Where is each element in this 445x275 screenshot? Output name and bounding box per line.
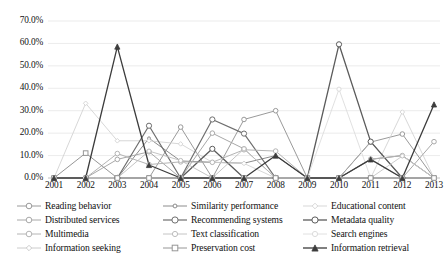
data-point-marker [172,217,178,223]
x-axis-tick: 2007 [235,180,253,191]
data-point-marker [273,108,278,113]
legend-label: Information retrieval [331,243,409,253]
legend-item-distributed-services[interactable]: Distributed services [16,213,162,227]
x-axis-tick: 2010 [330,180,348,191]
legend-item-text-classification[interactable]: Text classification [162,227,302,241]
data-point-marker [178,142,183,147]
y-axis-tick: 20.0% [20,128,43,137]
data-point-marker [178,125,183,130]
data-point-marker [210,160,215,165]
legend-marker-icon [16,228,42,240]
y-axis-tick: 0.0% [24,173,43,182]
legend-label: Preservation cost [191,243,255,253]
legend-label: Text classification [191,229,259,239]
data-point-marker [432,139,437,144]
y-axis-tick: 70.0% [20,16,43,25]
data-point-marker [242,147,246,151]
x-axis-labels: 2001200220032004200520062007200820092010… [48,180,440,198]
data-point-marker [115,157,120,162]
x-axis-tick: 2004 [140,180,158,191]
legend-item-information-seeking[interactable]: Information seeking [16,241,162,255]
data-point-marker [242,117,247,122]
data-point-marker [210,146,215,151]
data-point-marker [115,151,120,156]
y-axis-tick: 50.0% [20,61,43,70]
legend-marker-icon [302,200,328,212]
y-axis-tick: 60.0% [20,38,43,47]
legend-label: Distributed services [45,215,119,225]
legend-label: Recommending systems [191,215,283,225]
legend-marker-icon [302,242,328,254]
data-point-marker [26,231,32,237]
series-markers-educational-content [52,101,437,180]
data-point-marker [179,158,183,162]
data-point-marker [147,149,151,153]
legend-marker-icon [302,214,328,226]
legend-label: Educational content [331,201,406,211]
legend-marker-icon [162,242,188,254]
legend-marker-icon [302,228,328,240]
data-point-marker [83,151,88,156]
data-point-marker [172,246,178,252]
legend-marker-icon [162,228,188,240]
x-axis-tick: 2005 [172,180,190,191]
legend-item-recommending-systems[interactable]: Recommending systems [162,213,302,227]
y-axis-tick: 10.0% [20,151,43,160]
x-axis-tick: 2006 [203,180,221,191]
x-axis-tick: 2003 [108,180,126,191]
y-axis-tick: 30.0% [20,106,43,115]
legend-item-reading-behavior[interactable]: Reading behavior [16,199,162,213]
data-point-marker [400,132,405,137]
x-axis-tick: 2002 [77,180,95,191]
x-axis-tick: 2001 [45,180,63,191]
chart-plot-svg [48,0,440,198]
data-point-marker [241,131,246,136]
data-point-marker [431,102,436,107]
y-axis-tick: 40.0% [20,83,43,92]
x-axis-tick: 2008 [267,180,285,191]
data-point-marker [26,217,32,223]
legend-item-information-retrieval[interactable]: Information retrieval [302,241,441,255]
legend-item-preservation-cost[interactable]: Preservation cost [162,241,302,255]
legend-marker-icon [162,214,188,226]
data-point-marker [336,42,341,47]
legend-label: Multimedia [45,229,89,239]
legend-marker-icon [16,214,42,226]
data-point-marker [115,44,120,49]
x-axis-tick: 2009 [298,180,316,191]
legend-label: Search engines [331,229,387,239]
legend-item-multimedia[interactable]: Multimedia [16,227,162,241]
series-markers-reading-behavior [52,108,437,180]
line-chart: 0.0%10.0%20.0%30.0%40.0%50.0%60.0%70.0% … [0,0,445,275]
legend-label: Similarity performance [191,201,278,211]
plot-canvas [48,0,440,198]
chart-legend: Reading behaviorSimilarity performanceEd… [16,199,441,273]
legend-marker-icon [16,242,42,254]
data-point-marker [146,123,151,128]
legend-item-educational-content[interactable]: Educational content [302,199,441,213]
legend-label: Metadata quality [331,215,394,225]
data-point-marker [242,161,247,166]
y-axis-labels: 0.0%10.0%20.0%30.0%40.0%50.0%60.0%70.0% [0,0,46,198]
data-point-marker [368,139,373,144]
legend-label: Information seeking [45,243,121,253]
data-point-marker [312,217,318,223]
legend-marker-icon [16,200,42,212]
data-point-marker [26,246,31,251]
data-point-marker [337,87,341,91]
plot-area: 0.0%10.0%20.0%30.0%40.0%50.0%60.0%70.0% [0,0,445,198]
x-axis-tick: 2012 [393,180,411,191]
legend-item-similarity-performance[interactable]: Similarity performance [162,199,302,213]
data-point-marker [172,232,177,237]
data-point-marker [312,232,317,237]
data-point-marker [312,203,318,209]
data-point-marker [26,203,32,209]
x-axis-tick: 2011 [362,180,380,191]
data-point-marker [173,204,177,208]
x-axis-tick: 2013 [425,180,443,191]
legend-item-metadata-quality[interactable]: Metadata quality [302,213,441,227]
data-point-marker [210,131,215,136]
legend-label: Reading behavior [45,201,111,211]
data-point-marker [210,117,215,122]
legend-item-search-engines[interactable]: Search engines [302,227,441,241]
